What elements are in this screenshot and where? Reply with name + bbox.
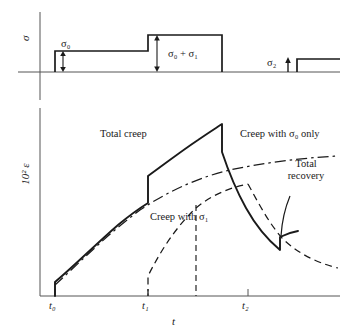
annotation-total-recovery: Total recovery: [272, 158, 340, 182]
sigma-sum-dimension-arrow: [154, 35, 160, 72]
curve-total-creep: [55, 124, 298, 296]
annotation-total-creep: Total creep: [100, 128, 147, 139]
tick-label-t0: t₀: [49, 300, 56, 311]
sigma2-dimension-arrow: [285, 57, 291, 72]
stress-sigma2-step: [297, 59, 340, 72]
tick-label-t1: t₁: [142, 300, 149, 311]
annotation-creep-sigma1: Creep with σ₁: [150, 211, 208, 222]
annotation-creep-sigma0-only: Creep with σ₀ only: [240, 128, 320, 139]
annotation-total-recovery-line1: Total: [272, 158, 340, 170]
sigma2-label: σ₂: [267, 57, 276, 68]
creep-recovery-figure: σ σ₀ σ₀ + σ₁ σ₂ 10² ε Total creep Creep …: [0, 0, 347, 335]
total-recovery-leader: [281, 196, 290, 236]
tick-label-t2: t₂: [242, 300, 249, 311]
strain-x-axis-label: t: [172, 315, 175, 327]
sigma-sum-label: σ₀ + σ₁: [168, 48, 198, 59]
strain-axis-label: 10² ε: [19, 151, 31, 197]
curve-creep-sigma1-rise: [148, 184, 248, 296]
curve-creep-sigma1-recovery: [248, 184, 338, 268]
sigma0-dimension-arrow: [60, 51, 66, 72]
stress-axis-label: σ: [19, 27, 31, 41]
annotation-total-recovery-line2: recovery: [272, 170, 340, 182]
sigma0-label: σ₀: [61, 38, 70, 49]
